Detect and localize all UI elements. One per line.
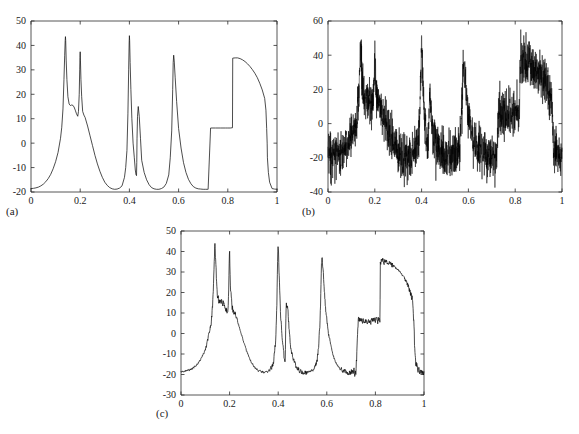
y-tick-label: 30 xyxy=(16,64,26,75)
x-tick-label: 0.2 xyxy=(74,195,87,206)
data-curve-denoised xyxy=(181,243,424,376)
y-tick-label: 20 xyxy=(313,84,323,95)
x-tick-label: 1 xyxy=(560,195,565,206)
y-tick-label: 50 xyxy=(16,15,26,26)
panel-a-caption: (a) xyxy=(6,205,18,217)
y-tick-label: -40 xyxy=(310,186,323,197)
x-tick-label: 0 xyxy=(326,195,331,206)
x-tick-label: 0 xyxy=(29,195,34,206)
y-tick-label: -10 xyxy=(13,162,26,173)
y-tick-label: 0 xyxy=(171,328,176,339)
x-tick-label: 1 xyxy=(275,195,280,206)
y-tick-label: 10 xyxy=(16,113,26,124)
y-tick-label: 40 xyxy=(16,40,26,51)
x-tick-label: 0.4 xyxy=(123,195,136,206)
x-tick-label: 0.6 xyxy=(462,195,475,206)
x-tick-label: 0.8 xyxy=(222,195,235,206)
y-tick-label: 20 xyxy=(166,287,176,298)
x-tick-label: 0.6 xyxy=(172,195,185,206)
x-tick-label: 0.4 xyxy=(272,398,285,409)
x-tick-label: 1 xyxy=(422,398,427,409)
chart-panel-b: -40-20020406000.20.40.60.81 xyxy=(296,8,579,208)
y-tick-label: 40 xyxy=(313,50,323,61)
y-tick-label: 50 xyxy=(166,225,176,236)
y-tick-label: 30 xyxy=(166,266,176,277)
plot-frame xyxy=(31,21,277,192)
y-tick-label: 40 xyxy=(166,246,176,257)
panel-c-caption: (c) xyxy=(156,407,168,419)
x-tick-label: 0.4 xyxy=(415,195,428,206)
chart-panel-c: -30-20-100102030405000.20.40.60.81 xyxy=(148,220,438,410)
x-tick-label: 0.6 xyxy=(321,398,334,409)
panel-b-plot: -40-20020406000.20.40.60.81 xyxy=(296,8,579,208)
x-tick-label: 0.8 xyxy=(509,195,522,206)
data-curve-noisy xyxy=(328,30,562,188)
figure-root: -20-100102030405000.20.40.60.81 (a) -40-… xyxy=(0,0,579,434)
x-tick-label: 0.8 xyxy=(369,398,382,409)
data-curve-clean xyxy=(31,36,277,190)
x-tick-label: 0.2 xyxy=(369,195,382,206)
y-tick-label: 10 xyxy=(166,307,176,318)
y-tick-label: 0 xyxy=(318,118,323,129)
chart-panel-a: -20-100102030405000.20.40.60.81 xyxy=(0,8,290,208)
x-tick-label: 0 xyxy=(179,398,184,409)
y-tick-label: -20 xyxy=(13,186,26,197)
y-tick-label: 60 xyxy=(313,15,323,26)
y-tick-label: 20 xyxy=(16,89,26,100)
y-tick-label: -20 xyxy=(310,152,323,163)
plot-frame xyxy=(181,231,424,395)
panel-b-caption: (b) xyxy=(302,205,315,217)
y-tick-label: 0 xyxy=(21,138,26,149)
y-tick-label: -20 xyxy=(163,369,176,380)
panel-c-plot: -30-20-100102030405000.20.40.60.81 xyxy=(148,220,438,410)
x-tick-label: 0.2 xyxy=(223,398,236,409)
y-tick-label: -30 xyxy=(163,389,176,400)
y-tick-label: -10 xyxy=(163,348,176,359)
panel-a-plot: -20-100102030405000.20.40.60.81 xyxy=(0,8,290,208)
